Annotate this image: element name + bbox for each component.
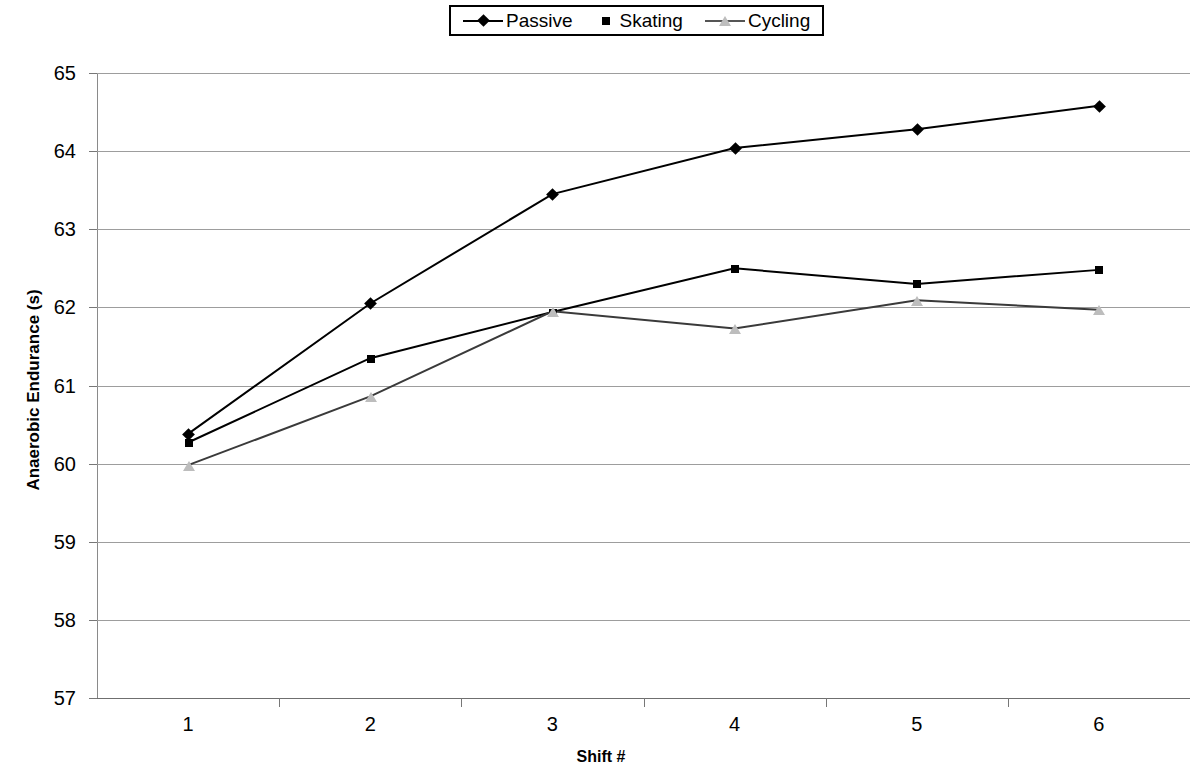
data-point-cycling-2[interactable] — [370, 396, 371, 397]
x-axis-tick — [461, 698, 462, 707]
data-point-passive-3[interactable] — [552, 194, 553, 195]
square-marker-icon — [913, 280, 921, 288]
x-tick-label: 4 — [705, 713, 765, 735]
y-axis-tick — [89, 151, 97, 152]
x-axis-title: Shift # — [0, 748, 1202, 766]
square-marker-icon — [1095, 266, 1103, 274]
y-axis-tick — [89, 229, 97, 230]
series-line-skating — [188, 268, 1099, 442]
series-layer — [97, 73, 1190, 698]
data-point-passive-6[interactable] — [1099, 106, 1100, 107]
x-tick-label: 6 — [1069, 713, 1129, 735]
y-axis-tick — [89, 698, 97, 699]
x-tick-label: 2 — [340, 713, 400, 735]
series-line-passive — [188, 106, 1099, 434]
data-point-passive-2[interactable] — [370, 303, 371, 304]
data-point-cycling-3[interactable] — [552, 311, 553, 312]
data-point-passive-1[interactable] — [188, 434, 189, 435]
y-tick-label: 63 — [16, 219, 76, 239]
y-axis-tick — [89, 386, 97, 387]
triangle-marker-icon — [911, 296, 923, 306]
data-point-passive-5[interactable] — [917, 129, 918, 130]
y-tick-label: 61 — [16, 376, 76, 396]
chart-legend: Passive Skating Cycling — [449, 5, 824, 36]
x-axis-tick — [644, 698, 645, 707]
legend-item-skating[interactable]: Skating — [595, 11, 683, 30]
data-point-skating-5[interactable] — [917, 284, 918, 285]
x-axis-tick — [1008, 698, 1009, 707]
y-tick-label: 57 — [16, 688, 76, 708]
data-point-cycling-6[interactable] — [1099, 310, 1100, 311]
y-tick-label: 62 — [16, 297, 76, 317]
triangle-marker-icon — [1093, 305, 1105, 315]
y-tick-label: 60 — [16, 454, 76, 474]
legend-item-cycling[interactable]: Cycling — [705, 11, 810, 30]
x-tick-label: 3 — [522, 713, 582, 735]
data-point-cycling-5[interactable] — [917, 300, 918, 301]
square-marker-icon — [731, 265, 739, 273]
diamond-marker-icon — [463, 13, 503, 29]
data-point-skating-6[interactable] — [1099, 270, 1100, 271]
x-axis-tick — [279, 698, 280, 707]
triangle-marker-icon — [547, 307, 559, 317]
legend-label-cycling: Cycling — [748, 11, 810, 30]
y-tick-label: 58 — [16, 610, 76, 630]
line-chart: Passive Skating Cycling Anaerobic Endura… — [0, 0, 1202, 781]
data-point-skating-2[interactable] — [370, 358, 371, 359]
square-marker-icon — [367, 355, 375, 363]
y-axis-tick — [89, 464, 97, 465]
square-marker-icon — [185, 439, 193, 447]
x-tick-label: 5 — [887, 713, 947, 735]
y-axis-tick — [89, 307, 97, 308]
x-axis-tick — [826, 698, 827, 707]
triangle-marker-icon — [729, 324, 741, 334]
y-axis-tick — [89, 620, 97, 621]
series-line-cycling — [188, 300, 1099, 465]
data-point-skating-4[interactable] — [735, 268, 736, 269]
data-point-cycling-1[interactable] — [188, 465, 189, 466]
y-axis-tick — [89, 542, 97, 543]
data-point-cycling-4[interactable] — [735, 328, 736, 329]
legend-label-passive: Passive — [506, 11, 573, 30]
plot-area: 575859606162636465 123456 — [97, 73, 1190, 698]
data-point-skating-1[interactable] — [188, 443, 189, 444]
data-point-passive-4[interactable] — [735, 148, 736, 149]
y-tick-label: 65 — [16, 63, 76, 83]
legend-label-skating: Skating — [620, 11, 683, 30]
triangle-marker-icon — [705, 13, 745, 29]
y-axis-tick — [89, 73, 97, 74]
y-tick-label: 64 — [16, 141, 76, 161]
triangle-marker-icon — [183, 461, 195, 471]
square-marker-icon — [595, 13, 617, 29]
legend-item-passive[interactable]: Passive — [463, 11, 573, 30]
triangle-marker-icon — [365, 392, 377, 402]
y-tick-label: 59 — [16, 532, 76, 552]
x-tick-label: 1 — [158, 713, 218, 735]
